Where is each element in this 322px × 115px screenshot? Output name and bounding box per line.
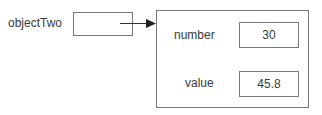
arrow-head-icon [146, 19, 156, 28]
field-label-value: value [185, 76, 214, 90]
field-label-number: number [174, 28, 215, 42]
field-value-number: 30 [239, 22, 299, 48]
field-value-value: 45.8 [239, 71, 299, 97]
